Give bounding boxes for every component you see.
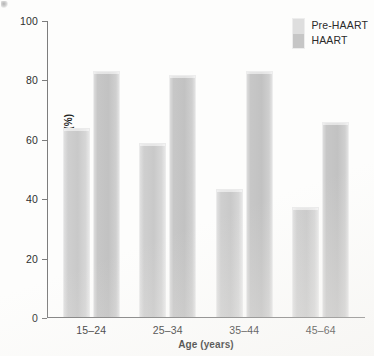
x-axis-line: [47, 317, 365, 318]
bar-pre-haart: [216, 189, 243, 317]
bar-haart: [93, 71, 120, 318]
bar-group: 35–44: [216, 20, 273, 317]
x-axis-category-label: 25–34: [153, 324, 183, 336]
bar-haart: [246, 71, 273, 318]
bar-chart: 10-Year Survival Rates (%) 100806040200 …: [0, 0, 374, 356]
x-axis-category-label: 45–64: [306, 324, 336, 336]
y-axis-tick-label: 100: [20, 15, 38, 27]
bar-pre-haart: [63, 128, 90, 317]
bar-pre-haart: [139, 143, 166, 317]
bar-group: 15–24: [63, 20, 120, 317]
y-axis-tick-label: 0: [32, 312, 38, 324]
x-axis-category-label: 35–44: [229, 324, 259, 336]
legend: Pre-HAART HAART: [292, 18, 368, 49]
bar-haart: [322, 122, 349, 317]
x-axis-title: Age (years): [47, 339, 365, 350]
legend-swatch-haart: [293, 34, 304, 49]
x-axis-category-label: 15–24: [76, 324, 106, 336]
bar-groups: 15–2425–3435–4445–64: [47, 20, 365, 317]
scan-artifact-icon: [1, 1, 8, 8]
legend-label-pre-haart: Pre-HAART: [311, 18, 368, 33]
y-axis-tick-label: 80: [26, 74, 38, 86]
legend-swatch: [292, 18, 305, 49]
legend-swatch-pre-haart: [293, 19, 304, 34]
legend-label-haart: HAART: [311, 33, 368, 48]
bar-haart: [169, 75, 196, 317]
y-axis-tick-label: 60: [26, 134, 38, 146]
plot-area: 100806040200 15–2425–3435–4445–64: [47, 21, 365, 318]
bar-group: 45–64: [292, 20, 349, 317]
bar-pre-haart: [292, 207, 319, 317]
legend-labels: Pre-HAART HAART: [311, 18, 368, 48]
bar-group: 25–34: [139, 20, 196, 317]
y-axis-tick: [42, 318, 47, 319]
y-axis-tick-label: 40: [26, 193, 38, 205]
y-axis-tick-label: 20: [26, 253, 38, 265]
